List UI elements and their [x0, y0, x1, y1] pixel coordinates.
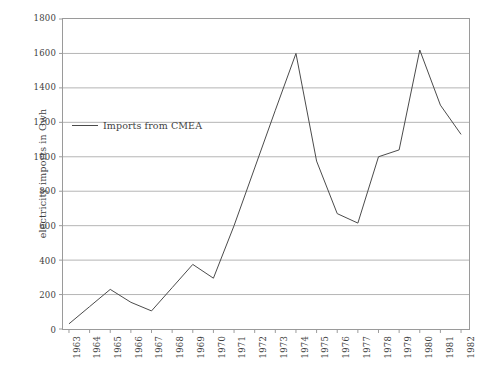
- x-axis-tick-label: 1968: [175, 336, 185, 358]
- y-axis-tick-label: 400: [12, 256, 56, 266]
- chart-legend: Imports from CMEA: [72, 120, 202, 131]
- y-axis-tick-label: 1800: [12, 13, 56, 23]
- x-axis-tick-label: 1963: [72, 336, 82, 358]
- x-axis-tick-label: 1965: [113, 336, 123, 358]
- x-axis-tick-labels: 1963196419651966196719681969197019711972…: [62, 332, 470, 368]
- x-axis-tick-label: 1974: [300, 336, 310, 358]
- chart-figure: electricity imports in Gwh 0200400600800…: [0, 0, 480, 368]
- data-series-layer: [63, 19, 469, 329]
- x-axis-tick-label: 1967: [154, 336, 164, 358]
- legend-label-imports-from-cmea: Imports from CMEA: [103, 120, 202, 131]
- legend-line-swatch-imports-from-cmea: [72, 125, 98, 126]
- y-axis-tick-label: 200: [12, 290, 56, 300]
- x-axis-tick-label: 1972: [258, 336, 268, 358]
- x-axis-tick-label: 1978: [383, 336, 393, 358]
- x-axis-tick-label: 1981: [445, 336, 455, 358]
- x-axis-tick-label: 1976: [341, 336, 351, 358]
- x-axis-tick-label: 1975: [320, 336, 330, 358]
- x-axis-tick-label: 1964: [92, 336, 102, 358]
- y-axis-tick-label: 1600: [12, 48, 56, 58]
- x-axis-tick-label: 1977: [362, 336, 372, 358]
- y-axis-tick-label: 600: [12, 221, 56, 231]
- y-axis-tick-label: 0: [12, 325, 56, 335]
- y-axis-tick-labels: 020040060080010001200140016001800: [8, 18, 56, 330]
- y-axis-tick-label: 1200: [12, 117, 56, 127]
- x-axis-tick-label: 1979: [403, 336, 413, 358]
- x-axis-tick-label: 1982: [466, 336, 476, 358]
- y-axis-tick-label: 1400: [12, 82, 56, 92]
- x-axis-tick-label: 1980: [424, 336, 434, 358]
- x-axis-tick-label: 1971: [237, 336, 247, 358]
- y-axis-tick-label: 800: [12, 186, 56, 196]
- x-axis-tick-label: 1973: [279, 336, 289, 358]
- y-axis-tick-label: 1000: [12, 152, 56, 162]
- series-line-imports-from-cmea: [69, 50, 461, 324]
- x-axis-tick-label: 1970: [217, 336, 227, 358]
- x-axis-tick-label: 1969: [196, 336, 206, 358]
- plot-area: [62, 18, 470, 330]
- x-axis-tick-label: 1966: [134, 336, 144, 358]
